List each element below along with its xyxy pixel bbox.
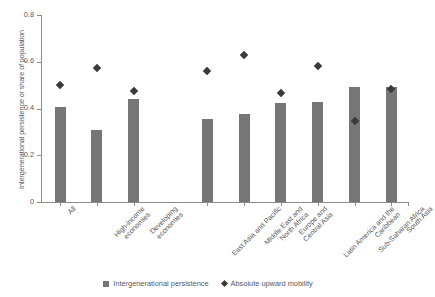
x-axis-label: High-incomeeconomies <box>113 205 153 245</box>
y-tick: 0.8 <box>37 15 42 16</box>
bar <box>128 99 139 202</box>
diamond-marker <box>93 63 101 71</box>
legend-item-persistence: Intergenerational persistence <box>103 279 208 288</box>
plot-area: 00.20.40.60.8 <box>41 15 409 202</box>
y-tick: 0.2 <box>37 155 42 156</box>
legend-item-mobility: Absolute upward mobility <box>222 279 313 288</box>
diamond-marker <box>56 81 64 89</box>
y-tick-label: 0.6 <box>24 56 34 65</box>
bar <box>275 103 286 202</box>
bar <box>202 119 213 202</box>
x-axis-label: Developingeconomies <box>148 205 185 242</box>
bar <box>239 114 250 202</box>
diamond-marker <box>277 89 285 97</box>
legend-label-persistence: Intergenerational persistence <box>113 279 208 288</box>
diamond-swatch-icon <box>221 280 228 287</box>
bar <box>349 87 360 202</box>
bar <box>55 107 66 202</box>
y-tick: 0 <box>37 202 42 203</box>
legend-label-mobility: Absolute upward mobility <box>231 279 313 288</box>
bar <box>386 87 397 202</box>
bar <box>91 130 102 202</box>
square-swatch-icon <box>103 281 109 287</box>
y-tick-label: 0.2 <box>24 150 34 159</box>
y-tick: 0.6 <box>37 62 42 63</box>
diamond-marker <box>240 50 248 58</box>
y-tick-label: 0 <box>30 197 34 206</box>
y-tick-label: 0.4 <box>24 103 34 112</box>
x-axis-label: All <box>66 205 78 217</box>
x-axis-labels: AllHigh-incomeeconomiesDevelopingeconomi… <box>41 205 409 275</box>
chart-legend: Intergenerational persistence Absolute u… <box>0 279 416 288</box>
y-tick: 0.4 <box>37 109 42 110</box>
diamond-marker <box>203 67 211 75</box>
bar <box>312 102 323 203</box>
diamond-marker <box>129 87 137 95</box>
y-tick-label: 0.8 <box>24 10 34 19</box>
diamond-marker <box>313 62 321 70</box>
